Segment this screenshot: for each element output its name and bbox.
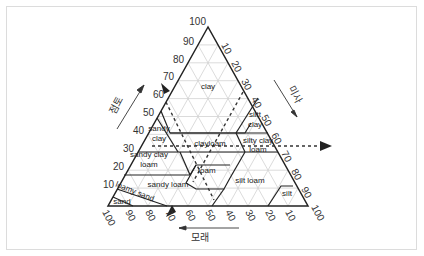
silt-ticks: 10 20 30 40 50 60 70 80 90 100: [219, 41, 327, 223]
svg-text:90: 90: [183, 36, 195, 47]
svg-text:20: 20: [229, 59, 244, 74]
svg-text:10: 10: [283, 208, 298, 223]
svg-text:20: 20: [113, 161, 125, 172]
silt-axis-label: 미사: [286, 84, 304, 105]
sand-ticks: 100 90 80 70 60 50 40 30 20 10: [100, 208, 298, 228]
region-sandy-loam: sandy loam: [148, 180, 189, 189]
region-clay: clay: [201, 82, 215, 91]
silt-arrowhead-icon: [320, 141, 332, 151]
region-loam: loam: [198, 166, 216, 175]
svg-text:100: 100: [100, 208, 118, 228]
svg-text:70: 70: [163, 71, 175, 82]
region-sandy-clay: sandy: [148, 124, 169, 133]
region-sand: sand: [113, 197, 130, 206]
region-silt-loam: silt loam: [235, 176, 265, 185]
svg-text:70: 70: [163, 208, 178, 223]
svg-text:20: 20: [263, 208, 278, 223]
svg-text:80: 80: [143, 208, 158, 223]
svg-text:40: 40: [133, 125, 145, 136]
soil-texture-triangle: 점토 미사 모래 10 20 30 40 50 60 70 80 90 100 …: [0, 0, 424, 256]
sand-axis-label: 모래: [191, 232, 209, 243]
region-sandy-clay-loam: sandy clay: [130, 150, 168, 159]
region-silty-clay-loam: silty clay: [243, 136, 273, 145]
grid: [118, 45, 298, 206]
svg-text:50: 50: [143, 107, 155, 118]
region-silty-clay: clay: [248, 120, 262, 129]
svg-text:60: 60: [183, 208, 198, 223]
svg-text:80: 80: [173, 54, 185, 65]
svg-text:60: 60: [153, 89, 165, 100]
svg-text:90: 90: [299, 185, 314, 200]
clay-axis-label: 점토: [107, 95, 125, 116]
svg-text:70: 70: [279, 149, 294, 164]
svg-text:10: 10: [103, 179, 115, 190]
svg-text:30: 30: [243, 208, 258, 223]
svg-text:10: 10: [219, 41, 234, 56]
svg-text:30: 30: [239, 77, 254, 92]
svg-text:90: 90: [123, 208, 138, 223]
region-sandy-clay-loam: loam: [140, 160, 158, 169]
region-silt: silt: [282, 189, 293, 198]
svg-text:100: 100: [189, 16, 206, 27]
svg-text:50: 50: [203, 208, 218, 223]
region-clay-loam: clayloam: [194, 139, 226, 148]
region-labels: clay sandy clay siltt clay sandy clay lo…: [113, 82, 292, 206]
svg-text:100: 100: [309, 203, 327, 223]
svg-text:40: 40: [223, 208, 238, 223]
region-silty-clay: siltt: [249, 110, 262, 119]
svg-text:80: 80: [289, 167, 304, 182]
region-silty-clay-loam: loam: [249, 145, 267, 154]
region-sandy-clay: clay: [152, 134, 166, 143]
